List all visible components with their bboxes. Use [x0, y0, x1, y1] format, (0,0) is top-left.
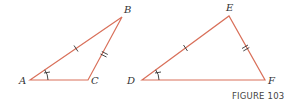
triangle-def: D E F [126, 2, 276, 86]
angle-arc-d [156, 70, 159, 80]
vertex-label-e: E [225, 2, 234, 13]
vertex-label-f: F [267, 75, 276, 86]
vertex-label-c: C [91, 75, 99, 86]
angle-tick-a [44, 72, 50, 73]
triangle-def-outline [142, 16, 265, 80]
triangles-diagram: A B C D E F [0, 0, 284, 104]
vertex-label-b: B [123, 4, 131, 15]
tick-mark-de [184, 45, 188, 51]
triangle-abc: A B C [18, 4, 131, 86]
vertex-label-d: D [126, 75, 135, 86]
figure-caption: FIGURE 103 [232, 91, 284, 101]
vertex-label-a: A [18, 75, 26, 86]
figure-canvas: A B C D E F FIGURE 103 [0, 0, 284, 104]
tick-mark-ab [74, 46, 78, 52]
angle-tick-d [155, 72, 161, 73]
angle-arc-a [45, 70, 48, 80]
